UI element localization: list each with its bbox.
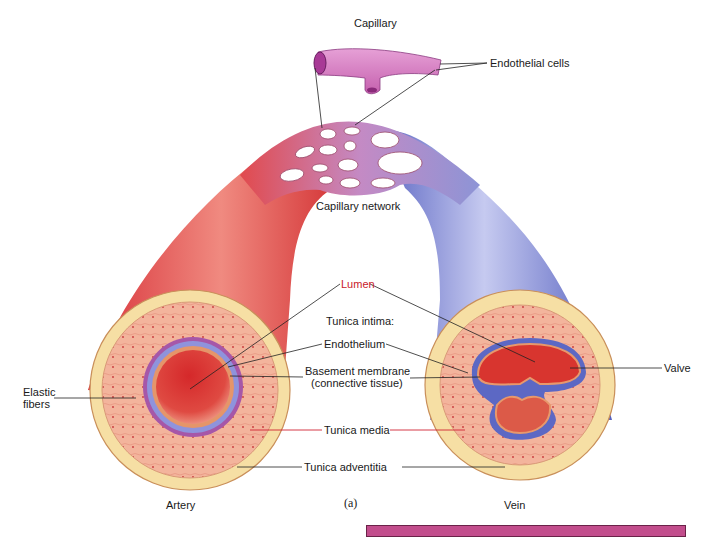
label-basement-membrane-sub: (connective tissue)	[311, 377, 403, 390]
micrograph-strip	[366, 525, 686, 537]
label-valve: Valve	[664, 362, 691, 375]
label-endothelium: Endothelium	[324, 338, 385, 351]
capillary-illustration	[314, 49, 441, 94]
vein-cross-section	[425, 290, 615, 480]
artery-cross-section	[90, 290, 290, 490]
label-tunica-media: Tunica media	[324, 424, 390, 437]
label-capillary-network: Capillary network	[316, 200, 400, 213]
capillary-network	[240, 121, 480, 205]
label-fibers: fibers	[23, 398, 50, 411]
label-capillary: Capillary	[354, 17, 397, 30]
label-lumen: Lumen	[341, 278, 375, 291]
label-tunica-adventitia: Tunica adventitia	[304, 461, 387, 474]
label-endothelial-cells: Endothelial cells	[490, 57, 570, 70]
panel-label: (a)	[344, 497, 357, 510]
label-vein: Vein	[504, 499, 525, 512]
label-artery: Artery	[166, 499, 195, 512]
label-tunica-intima: Tunica intima:	[326, 315, 394, 328]
